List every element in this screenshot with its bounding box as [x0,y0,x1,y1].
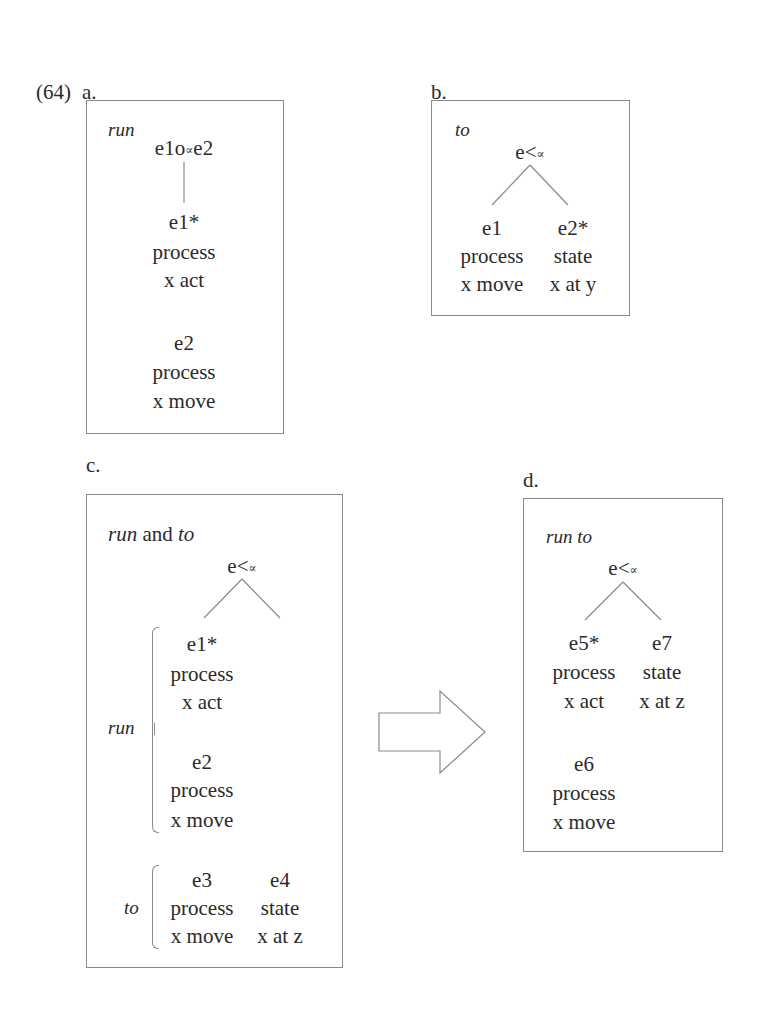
panel-d-node-pred: x act [564,691,604,712]
panel-c-title: run and to [108,524,194,545]
panel-c-node-type: process [171,780,234,801]
panel-c-root: e<∝ [227,556,256,577]
panel-c-node-id: e4 [270,870,290,891]
to-brace [152,865,159,949]
title-to: to [178,522,194,546]
panel-c-node-type: process [171,898,234,919]
panel-d-node-pred: x move [553,812,615,833]
panel-b-node-pred: x at y [550,274,597,295]
title-and: and [137,522,178,546]
run-brace-tip [146,722,155,735]
panel-b-node-pred: x move [461,274,523,295]
panel-a-root: e1o∝e2 [155,138,213,159]
panel-c-node-type: state [261,898,299,919]
panel-b-node-id: e1 [482,218,502,239]
alpha-subscript: ∝ [249,561,257,575]
panel-d-node-id: e5* [569,633,599,654]
panel-c-node-id: e3 [192,870,212,891]
panel-c-node-id: e2 [192,752,212,773]
tree-lines [0,0,764,1009]
alpha-subscript: ∝ [537,147,545,161]
panel-d-node-id: e6 [574,754,594,775]
panel-c-node-pred: x move [171,926,233,947]
panel-d-node-id: e7 [652,633,672,654]
alpha-subscript: ∝ [630,563,638,577]
panel-c-node-pred: x act [182,692,222,713]
panel-a-node-id: e1* [169,212,199,233]
panel-b-node-type: state [554,246,592,267]
panel-b-root: e<∝ [515,142,544,163]
panel-b-node-id: e2* [558,218,588,239]
panel-c-node-type: process [171,664,234,685]
panel-a-node-id: e2 [174,333,194,354]
panel-a-node-pred: x move [153,391,215,412]
panel-d-root: e<∝ [608,558,637,579]
panel-a-title: run [108,120,134,139]
root-pre: e< [227,554,248,578]
root-post: e2 [193,136,213,160]
panel-c-node-id: e1* [187,634,217,655]
group-to-label: to [124,898,139,917]
title-run: run [108,522,137,546]
panel-a-node-type: process [153,362,216,383]
panel-c-node-pred: x move [171,810,233,831]
root-pre: e< [608,556,629,580]
panel-d-node-type: process [553,662,616,683]
panel-a-node-pred: x act [164,270,204,291]
panel-a-node-type: process [153,242,216,263]
panel-d-node-pred: x at z [639,691,684,712]
panel-b-node-type: process [461,246,524,267]
panel-c-node-pred: x at z [257,926,302,947]
right-arrow-icon [379,691,485,773]
root-pre: e< [515,140,536,164]
root-pre: e1o [155,136,185,160]
group-run-label: run [108,718,134,737]
panel-b-title: to [455,120,470,139]
panel-d-node-type: state [643,662,681,683]
panel-d-title: run to [546,527,592,546]
panel-d-node-type: process [553,783,616,804]
